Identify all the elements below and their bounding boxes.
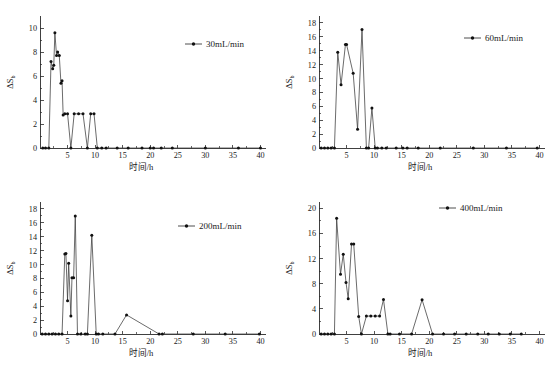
data-point [55, 54, 58, 57]
y-tick-label: 12 [308, 255, 316, 264]
data-point [320, 147, 323, 150]
data-point [498, 333, 501, 336]
x-tick-label: 40 [256, 151, 264, 160]
x-tick-label: 25 [174, 151, 182, 160]
data-point [66, 299, 69, 302]
y-tick-label: 6 [33, 288, 37, 297]
series-markers [320, 28, 539, 149]
x-axis-title: 时间/h [408, 161, 433, 172]
data-point [385, 147, 388, 150]
data-point [370, 107, 373, 110]
data-point [82, 112, 85, 115]
y-tick-label: 8 [312, 280, 316, 289]
legend: 200mL/min [178, 221, 242, 231]
legend-label: 30mL/min [206, 39, 244, 49]
data-point [352, 72, 355, 75]
x-axis-ticks: 510152025303540 [333, 145, 544, 161]
y-tick-label: 6 [312, 102, 316, 111]
data-point [330, 147, 333, 150]
x-tick-label: 15 [119, 337, 127, 346]
data-point [335, 217, 338, 220]
x-axis-title: 时间/h [129, 161, 154, 172]
y-tick-label: 18 [308, 19, 316, 28]
x-tick-label: 40 [256, 337, 264, 346]
data-point [333, 147, 336, 150]
data-point [347, 297, 350, 300]
x-tick-label: 35 [229, 151, 237, 160]
data-point [56, 51, 59, 54]
legend-label: 60mL/min [485, 33, 523, 43]
y-tick-label: 4 [33, 302, 37, 311]
data-point [47, 333, 50, 336]
x-tick-label: 40 [535, 151, 543, 160]
y-axis-ticks: 048121620 [308, 204, 323, 339]
x-tick-label: 25 [174, 337, 182, 346]
data-point [453, 333, 456, 336]
y-tick-label: 2 [312, 130, 316, 139]
data-point [340, 83, 343, 86]
x-tick-label: 35 [508, 337, 516, 346]
data-point [339, 273, 342, 276]
data-point [421, 298, 424, 301]
x-tick-label: 15 [398, 151, 406, 160]
data-point [74, 214, 77, 217]
data-point [51, 333, 54, 336]
axes [40, 16, 266, 148]
series-line [321, 218, 521, 334]
data-point [369, 315, 372, 318]
data-point [69, 147, 72, 150]
legend-marker-icon [471, 36, 474, 39]
data-point [360, 333, 363, 336]
y-tick-label: 10 [308, 75, 316, 84]
x-axis-title: 时间/h [408, 347, 433, 358]
data-point [410, 333, 413, 336]
legend: 400mL/min [439, 203, 503, 213]
series-line [321, 30, 537, 148]
data-point [86, 147, 89, 150]
y-tick-label: 2 [33, 120, 37, 129]
x-tick-label: 35 [229, 337, 237, 346]
series-line [43, 33, 261, 148]
y-tick-label: 4 [312, 305, 316, 314]
data-point [72, 276, 75, 279]
data-point [73, 112, 76, 115]
data-point [90, 234, 93, 237]
data-point [431, 333, 434, 336]
data-point [389, 333, 392, 336]
data-point [398, 333, 401, 336]
data-point [365, 315, 368, 318]
data-point [61, 333, 64, 336]
data-point [376, 147, 379, 150]
data-point [101, 333, 104, 336]
data-point [509, 333, 512, 336]
data-point [54, 333, 57, 336]
data-point [476, 333, 479, 336]
data-point [105, 147, 108, 150]
data-point [336, 51, 339, 54]
data-point [224, 333, 227, 336]
chart-svg: 048121620510152025303540时间/hΔSb400mL/min [279, 186, 557, 374]
data-point [417, 147, 420, 150]
data-point [320, 333, 323, 336]
y-axis-title: ΔSb [284, 75, 295, 88]
data-point [44, 333, 47, 336]
y-tick-label: 0 [33, 144, 37, 153]
data-point [161, 333, 164, 336]
data-point [125, 313, 128, 316]
four-panel-line-chart-figure: 0246810510152025303540时间/hΔSb30mL/min 02… [0, 0, 557, 376]
x-tick-label: 15 [119, 151, 127, 160]
axes [319, 202, 545, 334]
data-point [505, 147, 508, 150]
x-tick-label: 5 [66, 151, 70, 160]
data-point [378, 315, 381, 318]
data-point [113, 333, 116, 336]
x-tick-label: 30 [201, 337, 209, 346]
data-point [127, 147, 130, 150]
y-tick-label: 18 [29, 205, 37, 214]
data-point [374, 315, 377, 318]
data-point [41, 147, 44, 150]
legend-label: 200mL/min [199, 221, 242, 231]
y-axis-title: ΔSb [5, 75, 16, 88]
y-tick-label: 2 [33, 316, 37, 325]
data-point [64, 252, 67, 255]
